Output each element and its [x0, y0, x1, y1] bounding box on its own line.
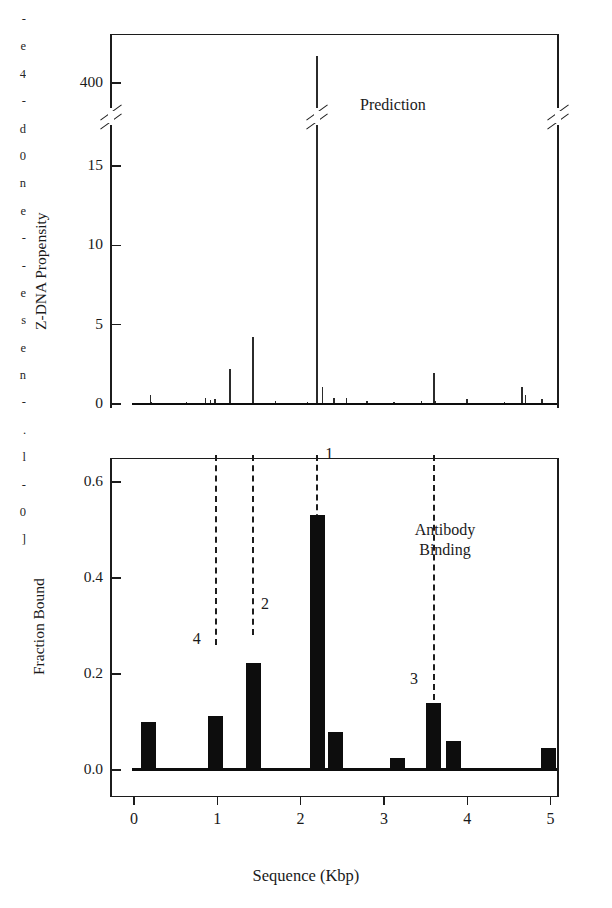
bottom-panel-y-tick-label: 0.6 — [30, 472, 103, 490]
prediction-annotation: Prediction — [360, 95, 426, 115]
bottom-panel-bar — [328, 732, 343, 770]
peak-connector-line — [252, 455, 254, 635]
x-axis-tick — [383, 796, 385, 805]
peak-label: 3 — [410, 670, 418, 688]
x-axis-tick-label: 0 — [114, 810, 154, 828]
top-panel-spike-clipped-lower — [316, 125, 318, 404]
top-panel-y-tick-label: 15 — [40, 156, 103, 174]
bottom-panel-right-spine — [557, 458, 559, 796]
x-axis-line — [110, 796, 559, 797]
x-axis-tick — [217, 796, 219, 805]
x-axis-tick-label: 3 — [364, 810, 404, 828]
x-axis-tick — [550, 796, 552, 805]
bottom-panel-y-tick-label: 0.0 — [30, 760, 103, 778]
peak-connector-line — [433, 455, 435, 700]
top-panel-top-spine — [110, 34, 559, 35]
top-panel-right-spine-upper — [557, 34, 559, 108]
bottom-panel-bar — [426, 703, 441, 770]
bottom-panel-left-spine — [110, 458, 112, 796]
peak-label: 2 — [261, 595, 269, 613]
bottom-panel-bar — [208, 716, 223, 770]
bottom-panel-top-spine — [110, 458, 559, 459]
antibody-annotation-line2: Binding — [419, 541, 471, 558]
bottom-panel-bar — [541, 748, 556, 770]
bottom-panel-bar — [141, 722, 156, 770]
top-panel-y-tick — [112, 403, 121, 405]
bottom-panel-y-tick — [112, 673, 121, 675]
top-panel-spike — [252, 337, 254, 404]
antibody-binding-annotation: Antibody Binding — [385, 520, 505, 560]
x-axis-tick-label: 1 — [197, 810, 237, 828]
top-panel-left-spine-lower — [110, 125, 112, 408]
top-panel-y-tick — [112, 245, 121, 247]
x-axis-tick — [133, 796, 135, 805]
top-panel-y-tick-label: 400 — [40, 73, 103, 91]
bottom-panel-data-baseline — [132, 768, 558, 771]
bottom-panel-y-axis-title: Fraction Bound — [30, 578, 48, 675]
peak-label: 4 — [193, 630, 201, 648]
x-axis-tick — [467, 796, 469, 805]
top-panel-y-tick — [112, 324, 121, 326]
x-axis-tick — [300, 796, 302, 805]
top-panel-spike — [229, 369, 231, 404]
top-panel-spike — [521, 387, 523, 404]
x-axis-tick-label: 4 — [447, 810, 487, 828]
axis-break-mark-right-mask — [555, 111, 561, 123]
x-axis-tick-label: 2 — [281, 810, 321, 828]
peak-connector-line — [215, 455, 217, 645]
bottom-panel-bar — [310, 515, 325, 770]
top-panel-left-spine-upper — [110, 34, 112, 108]
bottom-panel-y-tick — [112, 769, 121, 771]
bottom-panel-y-tick — [112, 481, 121, 483]
axis-break-mark-left-mask — [108, 111, 114, 123]
top-panel-y-tick — [112, 165, 121, 167]
top-panel-y-tick-label: 0 — [40, 394, 103, 412]
top-panel-spike — [433, 373, 435, 404]
top-panel-right-spine-lower — [557, 125, 559, 408]
bottom-panel-y-tick — [112, 577, 121, 579]
x-axis-title: Sequence (Kbp) — [0, 866, 612, 886]
figure-zdna-propensity-antibody-binding: 051015400 Z-DNA Propensity Prediction 12… — [0, 0, 612, 908]
x-axis-tick-label: 5 — [531, 810, 571, 828]
antibody-annotation-line1: Antibody — [415, 521, 475, 538]
top-panel-data-baseline — [132, 403, 557, 405]
top-panel-y-axis-title: Z-DNA Propensity — [32, 212, 50, 330]
bottom-panel-bar — [246, 663, 261, 770]
bottom-panel-bar — [446, 741, 461, 770]
axis-break-mark-spike-mask — [314, 111, 320, 123]
top-panel-y-tick-400 — [112, 82, 121, 84]
peak-label: 1 — [325, 445, 333, 463]
top-panel-spike — [322, 387, 324, 404]
top-panel-spike-clipped-upper — [316, 56, 318, 108]
